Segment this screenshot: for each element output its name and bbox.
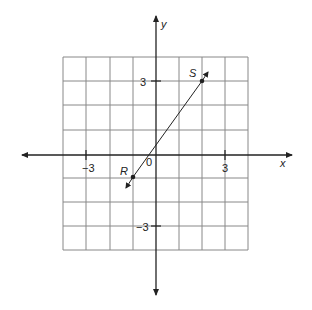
y-axis-label: y [160, 18, 168, 30]
point-s-label: S [189, 67, 197, 79]
origin-label: 0 [146, 156, 152, 168]
point-r-label: R [120, 165, 128, 177]
tick-label-x-neg3: −3 [82, 162, 95, 174]
tick-label-y-neg3: −3 [136, 221, 149, 233]
point-s [200, 79, 205, 84]
coordinate-plane: y x 0 −3 3 3 −3 S R [0, 0, 312, 310]
x-axis-label: x [279, 157, 286, 169]
point-r [131, 175, 136, 180]
tick-label-y-3: 3 [140, 76, 146, 88]
tick-label-x-3: 3 [222, 162, 228, 174]
